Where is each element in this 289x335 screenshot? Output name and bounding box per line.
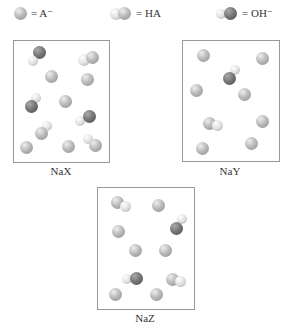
a-minus-icon <box>14 7 27 20</box>
panel-naz <box>97 187 195 310</box>
a-minus-sphere <box>20 141 33 154</box>
panel-nax <box>13 40 110 163</box>
legend-a-minus: = A⁻ <box>14 6 53 20</box>
oh-minus-icon <box>216 7 238 20</box>
oh-minus-molecule <box>23 93 49 113</box>
a-minus-sphere <box>197 49 210 62</box>
ha-molecule <box>166 273 192 293</box>
ha-molecule <box>34 121 60 141</box>
a-minus-sphere <box>238 88 251 101</box>
a-minus-sphere <box>112 225 125 238</box>
panel-label-naz: NaZ <box>115 312 175 324</box>
a-minus-sphere <box>245 137 258 150</box>
panel-nay <box>182 40 280 162</box>
ha-icon <box>110 7 132 20</box>
oh-minus-molecule <box>122 272 148 292</box>
legend-oh-minus: = OH⁻ <box>216 6 273 20</box>
a-minus-sphere <box>59 95 72 108</box>
ha-molecule <box>78 51 104 71</box>
a-minus-sphere <box>256 52 269 65</box>
a-minus-sphere <box>150 288 163 301</box>
a-minus-sphere <box>256 115 269 128</box>
a-minus-sphere <box>196 142 209 155</box>
oh-minus-molecule <box>25 46 51 66</box>
legend-text: = A⁻ <box>31 7 53 20</box>
a-minus-sphere <box>129 244 142 257</box>
oh-minus-molecule <box>75 107 101 127</box>
panel-label-nay: NaY <box>200 165 260 177</box>
a-minus-sphere <box>109 288 122 301</box>
legend-text: = HA <box>136 7 161 19</box>
oh-minus-molecule <box>167 214 193 234</box>
a-minus-sphere <box>152 199 165 212</box>
oh-minus-molecule <box>220 65 246 85</box>
a-minus-sphere <box>62 140 75 153</box>
a-minus-sphere <box>45 70 58 83</box>
ha-molecule <box>203 117 229 137</box>
ha-molecule <box>83 134 109 154</box>
legend-ha: = HA <box>110 6 161 20</box>
a-minus-sphere <box>159 244 172 257</box>
legend-text: = OH⁻ <box>242 7 273 20</box>
a-minus-sphere <box>81 73 94 86</box>
ha-molecule <box>111 196 137 216</box>
panel-label-nax: NaX <box>31 165 91 177</box>
a-minus-sphere <box>190 84 203 97</box>
